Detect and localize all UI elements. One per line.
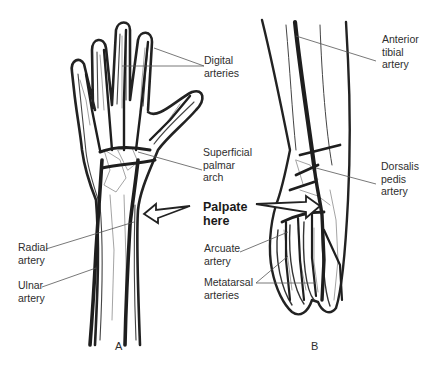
label-dorsalis-pedis-artery: Dorsalis pedis artery (381, 160, 419, 198)
dorsalis-pedis-artery (314, 165, 324, 300)
arcuate-artery (282, 212, 324, 222)
hand-illustration (72, 23, 203, 346)
palpate-here-callout: Palpate here (203, 200, 247, 228)
hand-outline (72, 23, 203, 346)
panel-label-b: B (311, 340, 318, 352)
label-anterior-tibial-artery: Anterior tibial artery (382, 33, 419, 71)
palpate-arrow-right (256, 196, 320, 218)
label-radial-artery: Radial artery (18, 241, 48, 266)
label-superficial-palmar-arch: Superficial palmar arch (203, 146, 252, 184)
palpate-arrow-left (144, 204, 190, 223)
label-digital-arteries: Digital arteries (204, 54, 239, 79)
foot-illustration (262, 20, 350, 314)
label-ulnar-artery: Ulnar artery (18, 279, 45, 304)
panel-label-a: A (115, 340, 122, 352)
label-metatarsal-arteries: Metatarsal arteries (204, 276, 253, 301)
radial-artery (125, 160, 138, 345)
anterior-tibial-artery (295, 22, 314, 165)
label-arcuate-artery: Arcuate artery (204, 242, 240, 267)
